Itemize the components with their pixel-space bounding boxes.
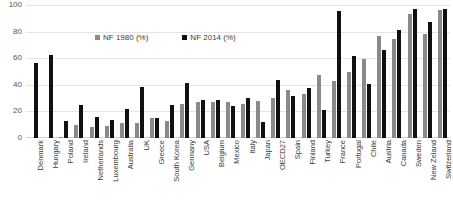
bar-nf-2014 — [261, 122, 265, 138]
x-axis-label: Switzerland — [445, 140, 453, 179]
bar-group — [435, 5, 450, 138]
bar-nf-1980 — [241, 104, 245, 138]
x-axis-label-cell: Mexico — [223, 139, 238, 201]
bar-nf-1980 — [226, 102, 230, 138]
bar-nf-1980 — [347, 72, 351, 138]
y-axis-tick: 100 — [9, 1, 22, 9]
x-axis-label-cell: USA — [193, 139, 208, 201]
bar-nf-1980 — [271, 98, 275, 138]
bar-nf-1980 — [332, 81, 336, 138]
bar-group — [87, 5, 102, 138]
x-axis: DenmarkHungaryPolandIrelandNetherlandsLu… — [26, 139, 450, 201]
x-axis-label-cell: Finland — [299, 139, 314, 201]
x-axis-label-cell: UK — [132, 139, 147, 201]
bar-series-container — [26, 5, 450, 138]
bar-group — [299, 5, 314, 138]
legend-item-nf-1980: NF 1980 (%) — [95, 33, 148, 42]
bar-group — [405, 5, 420, 138]
bar-nf-2014 — [170, 105, 174, 138]
bar-nf-2014 — [397, 30, 401, 138]
bar-nf-1980 — [135, 123, 139, 138]
bar-nf-1980 — [105, 126, 109, 138]
bar-group — [56, 5, 71, 138]
bar-nf-1980 — [196, 102, 200, 138]
bar-group — [132, 5, 147, 138]
bar-group — [223, 5, 238, 138]
bar-nf-2014 — [443, 9, 447, 138]
x-axis-label-cell: France — [329, 139, 344, 201]
bar-group — [314, 5, 329, 138]
legend-label: NF 2014 (%) — [190, 33, 235, 42]
y-axis-tick: 0 — [18, 134, 22, 142]
x-axis-label-cell: Portugal — [344, 139, 359, 201]
bar-nf-2014 — [307, 88, 311, 138]
bar-nf-2014 — [322, 110, 326, 138]
x-axis-label-cell: Japan — [253, 139, 268, 201]
x-axis-label-cell: Chile — [359, 139, 374, 201]
bar-group — [41, 5, 56, 138]
bar-nf-2014 — [246, 98, 250, 138]
bar-nf-2014 — [79, 105, 83, 138]
chart-legend: NF 1980 (%) NF 2014 (%) — [95, 33, 236, 42]
bar-nf-2014 — [382, 50, 386, 138]
bar-nf-2014 — [428, 22, 432, 138]
y-axis: 0 20 40 60 80 100 — [0, 5, 26, 138]
bar-group — [147, 5, 162, 138]
bar-nf-1980 — [90, 127, 94, 138]
bar-nf-1980 — [120, 123, 124, 138]
x-axis-label-cell: Ireland — [71, 139, 86, 201]
x-axis-label-cell: OECD27 — [268, 139, 283, 201]
x-axis-label-cell: Greece — [147, 139, 162, 201]
bar-group — [374, 5, 389, 138]
bar-nf-1980 — [59, 137, 63, 138]
x-axis-label-cell: Australia — [117, 139, 132, 201]
x-axis-label-cell: Poland — [56, 139, 71, 201]
x-axis-label-cell: Denmark — [26, 139, 41, 201]
bar-nf-1980 — [438, 10, 442, 138]
bar-nf-1980 — [180, 104, 184, 138]
x-axis-label-cell: South Korea — [162, 139, 177, 201]
x-axis-label-cell: Luxembourg — [102, 139, 117, 201]
bar-nf-2014 — [64, 121, 68, 138]
bar-group — [420, 5, 435, 138]
bar-nf-1980 — [256, 101, 260, 138]
legend-swatch-icon — [95, 35, 100, 40]
bar-group — [238, 5, 253, 138]
bar-group — [283, 5, 298, 138]
bar-nf-2014 — [367, 84, 371, 138]
bar-nf-2014 — [231, 106, 235, 138]
bar-nf-2014 — [110, 120, 114, 138]
bar-nf-2014 — [95, 117, 99, 138]
bar-nf-1980 — [408, 14, 412, 138]
legend-swatch-icon — [182, 35, 187, 40]
bar-nf-2014 — [352, 56, 356, 138]
bar-group — [329, 5, 344, 138]
x-axis-label-cell: New Zeland — [420, 139, 435, 201]
bar-group — [359, 5, 374, 138]
bar-group — [102, 5, 117, 138]
legend-item-nf-2014: NF 2014 (%) — [182, 33, 235, 42]
bar-group — [26, 5, 41, 138]
x-axis-label-cell: Switzerland — [435, 139, 450, 201]
bar-nf-1980 — [211, 102, 215, 138]
bar-nf-1980 — [377, 36, 381, 138]
bar-nf-2014 — [413, 9, 417, 138]
legend-label: NF 1980 (%) — [103, 33, 148, 42]
x-axis-label-cell: Austria — [374, 139, 389, 201]
bar-nf-2014 — [185, 83, 189, 138]
bar-nf-2014 — [49, 55, 53, 138]
bar-group — [208, 5, 223, 138]
x-axis-label-cell: Netherlands — [87, 139, 102, 201]
bar-chart: 0 20 40 60 80 100 NF 1980 (%) NF 2014 (%… — [0, 0, 453, 201]
bar-nf-2014 — [34, 63, 38, 138]
bar-nf-1980 — [74, 125, 78, 138]
bar-nf-2014 — [216, 100, 220, 138]
bar-group — [71, 5, 86, 138]
bar-nf-2014 — [125, 109, 129, 138]
bar-nf-2014 — [291, 96, 295, 138]
bar-nf-2014 — [155, 118, 159, 138]
plot-area — [26, 5, 450, 138]
bar-nf-1980 — [286, 90, 290, 138]
bar-group — [344, 5, 359, 138]
bar-group — [117, 5, 132, 138]
